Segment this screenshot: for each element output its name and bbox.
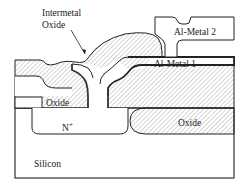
n-plus-region: [32, 108, 128, 134]
label-silicon: Silicon: [34, 159, 61, 169]
label-metal1: Al-Metal 1: [154, 59, 196, 69]
metal2-layer: [155, 17, 234, 57]
cross-section-diagram: Intermetal Oxide Al-Metal 2 Al-Metal 1 O…: [0, 0, 249, 188]
label-intermetal-oxide: Oxide: [42, 20, 65, 30]
label-oxide-left: Oxide: [46, 98, 69, 108]
label-intermetal: Intermetal: [42, 8, 81, 18]
oxide-left-box: [15, 97, 42, 108]
label-oxide-right: Oxide: [178, 118, 201, 128]
label-metal2: Al-Metal 2: [174, 27, 216, 37]
